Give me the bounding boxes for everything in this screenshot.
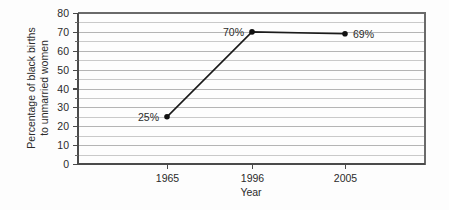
x-axis-title: Year xyxy=(240,186,262,198)
y-tick-label-40: 40 xyxy=(57,83,69,95)
y-tick-label-10: 10 xyxy=(57,139,69,151)
y-tick-label-30: 30 xyxy=(57,101,69,113)
y-tick-label-70: 70 xyxy=(57,26,69,38)
series-markers-group xyxy=(164,29,348,120)
series-line-black-births xyxy=(167,32,345,117)
y-axis-title-line1: Percentage of black births xyxy=(25,27,37,148)
y-tick-label-0: 0 xyxy=(63,158,69,170)
y-tick-label-80: 80 xyxy=(57,7,69,19)
chart-container: 01020304050607080 196519962005 25%70%69%… xyxy=(0,0,449,210)
x-axis-tick-labels-group: 196519962005 xyxy=(156,172,358,184)
data-point-label-2005: 69% xyxy=(353,28,374,40)
y-axis-ticks-group xyxy=(73,14,78,165)
data-point-marker-1965 xyxy=(164,114,170,120)
y-tick-label-60: 60 xyxy=(57,45,69,57)
data-point-label-1965: 25% xyxy=(138,111,159,123)
x-tick-label-2005: 2005 xyxy=(334,172,358,184)
x-tick-label-1996: 1996 xyxy=(241,172,265,184)
data-point-marker-1996 xyxy=(249,29,255,35)
data-point-label-1996: 70% xyxy=(223,26,244,38)
data-point-marker-2005 xyxy=(342,31,348,37)
y-axis-tick-labels-group: 01020304050607080 xyxy=(57,7,69,170)
y-tick-label-20: 20 xyxy=(57,120,69,132)
data-series-group xyxy=(164,29,348,120)
line-chart: 01020304050607080 196519962005 25%70%69%… xyxy=(0,0,449,210)
y-axis-title-line2: to unmarried women xyxy=(38,40,50,136)
x-tick-label-1965: 1965 xyxy=(156,172,180,184)
y-tick-label-50: 50 xyxy=(57,64,69,76)
